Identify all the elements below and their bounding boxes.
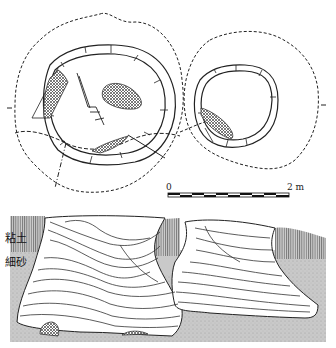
fine-sand-label: 細砂 <box>5 253 27 269</box>
scale-bar-end-label: 2 m <box>287 182 304 192</box>
scale-bar-start-label: 0 <box>166 182 172 192</box>
archaeological-pit-diagram <box>0 0 336 348</box>
right-pit-rim-inner <box>201 71 272 140</box>
left-pit-stake-lines <box>77 73 104 125</box>
left-pit-rim-inner <box>49 54 165 155</box>
right-pit-dashed-boundary <box>184 31 318 168</box>
clay-label: 粘土 <box>5 229 27 245</box>
plan-view <box>7 13 326 192</box>
left-pit-hatched-stone-west <box>44 70 68 118</box>
right-pit-ground-line <box>180 122 205 132</box>
left-pit-hatched-stone-south <box>92 136 128 153</box>
left-pit-section-line-b <box>128 135 165 158</box>
scale-bar <box>168 193 289 197</box>
section-view <box>10 216 326 342</box>
right-pit-rim-outer <box>194 65 278 147</box>
left-pit-ground-line <box>15 131 180 149</box>
left-pit-hatched-stone-center <box>102 83 141 109</box>
left-pit-section-line-a <box>55 143 66 188</box>
